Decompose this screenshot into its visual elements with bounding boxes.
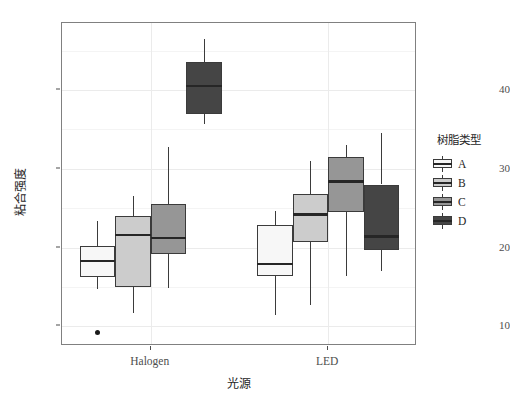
y-axis-title: 粘合强度 [11, 97, 29, 287]
legend-item-a[interactable]: A [432, 154, 510, 173]
median-line [186, 85, 222, 88]
box-plot [328, 23, 364, 346]
page-edge-artifact [4, 404, 264, 409]
box-iqr [293, 194, 329, 242]
median-line [364, 235, 400, 238]
box-plot [186, 23, 222, 346]
x-axis-title: 光源 [61, 374, 416, 392]
box-plot [257, 23, 293, 346]
legend-swatch-icon [432, 174, 453, 192]
whisker-lower [275, 276, 276, 315]
median-line [80, 260, 116, 263]
whisker-lower [133, 287, 134, 313]
box-iqr [364, 185, 400, 250]
y-axis-tick-mark [56, 88, 60, 89]
whisker-lower [168, 254, 169, 289]
legend-item-b[interactable]: B [432, 173, 510, 192]
box-iqr [257, 225, 293, 276]
box-plot [80, 23, 116, 346]
y-axis-tick-label: 20 [468, 241, 510, 253]
median-line [293, 213, 329, 216]
whisker-upper [310, 161, 311, 194]
median-line [151, 237, 187, 240]
y-axis-tick-mark [56, 246, 60, 247]
whisker-lower [204, 114, 205, 124]
x-axis-tick-mark [150, 346, 151, 350]
box-iqr [115, 216, 151, 287]
legend-item-label: C [458, 196, 466, 208]
median-line [115, 234, 151, 237]
legend-item-c[interactable]: C [432, 192, 510, 211]
legend-items: ABCD [432, 154, 510, 230]
x-axis-tick-mark [327, 346, 328, 350]
whisker-upper [133, 196, 134, 216]
whisker-upper [168, 147, 169, 205]
y-axis-tick-label: 10 [468, 319, 510, 331]
box-iqr [186, 62, 222, 113]
whisker-upper [97, 221, 98, 246]
box-iqr [328, 157, 364, 212]
legend: 树脂类型 ABCD [432, 131, 510, 230]
whisker-upper [346, 145, 347, 157]
legend-swatch-icon [432, 193, 453, 211]
y-axis-tick-label: 40 [468, 83, 510, 95]
box-iqr [151, 204, 187, 254]
box-plot [364, 23, 400, 346]
whisker-lower [97, 277, 98, 290]
whisker-lower [381, 250, 382, 271]
whisker-upper [381, 133, 382, 184]
y-axis-tick-mark [56, 167, 60, 168]
legend-swatch-icon [432, 155, 453, 173]
plot-panel [61, 22, 416, 345]
legend-item-label: B [458, 177, 466, 189]
median-line [257, 263, 293, 266]
whisker-upper [204, 39, 205, 63]
box-plot [151, 23, 187, 346]
legend-item-label: D [458, 215, 466, 227]
legend-title: 树脂类型 [437, 131, 510, 147]
y-axis-tick-mark [56, 325, 60, 326]
boxplot-chart: 10203040 HalogenLED 光源 粘合强度 树脂类型 ABCD [0, 0, 510, 411]
box-plot [293, 23, 329, 346]
outlier-point [95, 330, 100, 335]
x-axis-tick-label: Halogen [130, 355, 169, 367]
median-line [328, 180, 364, 183]
box-plot-series-layer [62, 23, 415, 344]
whisker-upper [275, 211, 276, 224]
legend-item-d[interactable]: D [432, 211, 510, 230]
legend-item-label: A [458, 158, 466, 170]
x-axis-tick-label: LED [316, 355, 338, 367]
whisker-lower [310, 242, 311, 305]
legend-swatch-icon [432, 212, 453, 230]
whisker-lower [346, 212, 347, 276]
box-plot [115, 23, 151, 346]
